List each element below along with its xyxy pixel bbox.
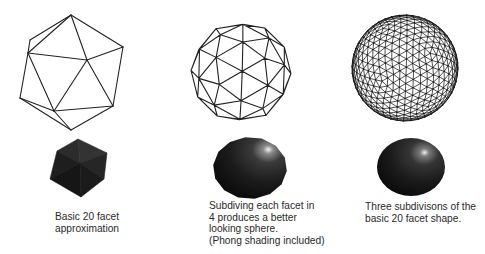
caption-basic-20-facet: Basic 20 facet approximation [55, 211, 119, 234]
icosphere-3-subdivisions-wireframe [352, 15, 458, 121]
caption-line: (Phong shading included) [209, 235, 325, 247]
caption-line: approximation [55, 223, 119, 235]
caption-line: 4 produces a better [209, 212, 325, 224]
caption-line: looking sphere. [209, 223, 325, 235]
icosahedron-shaded [50, 139, 107, 197]
caption-three-subdivisions: Three subdivisons of the basic 20 facet … [365, 201, 476, 224]
caption-subdivided-once: Subdiving each facet in 4 produces a bet… [209, 200, 325, 246]
caption-line: Basic 20 facet [55, 211, 119, 223]
icosahedron-wireframe [20, 15, 123, 130]
caption-line: Subdiving each facet in [209, 200, 325, 212]
caption-line: Three subdivisons of the [365, 201, 476, 213]
icosphere-1-subdivision-phong-shaded [213, 137, 287, 199]
icosphere-1-subdivision-wireframe [191, 24, 291, 120]
caption-line: basic 20 facet shape. [365, 213, 476, 225]
icosphere-3-subdivisions-phong-shaded [377, 138, 445, 196]
